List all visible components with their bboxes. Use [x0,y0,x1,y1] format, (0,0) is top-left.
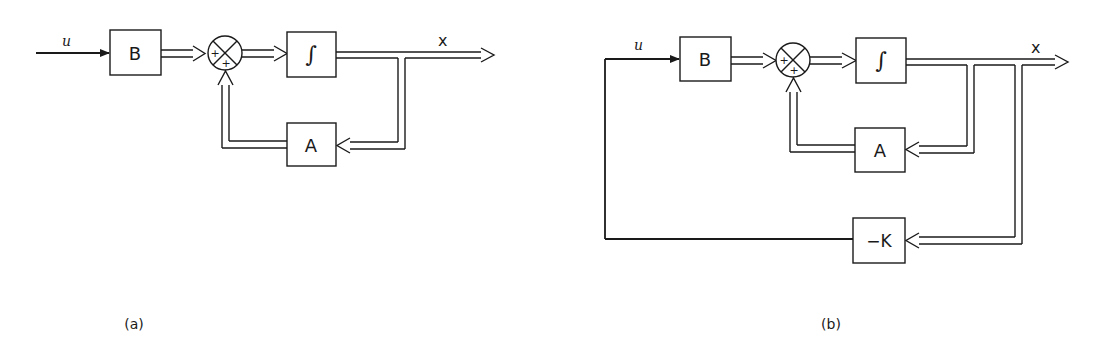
double-arrow-sum-to-integrator [242,46,287,61]
summer-sign-left-a: + [210,47,219,60]
label-u-b: u [634,37,643,53]
label-u-a: u [62,33,71,49]
diagram-a [36,30,494,166]
feedback-path-a-to-sum [786,78,855,152]
caption-a: (a) [124,316,144,332]
output-x-double-arrow [336,48,494,62]
feedback-path-to-a [337,58,405,153]
double-arrow-b-to-sum [161,46,205,61]
block-minus-k-label: −K [866,231,892,251]
double-arrow-b-to-sum [731,53,776,68]
summer-sign-bottom-b: + [789,64,798,77]
integrator-label-b: ∫ [875,48,887,73]
double-arrow-sum-to-integrator [810,53,856,68]
diagram-b [605,37,1068,263]
block-a-label-b: A [874,140,887,161]
integrator-label-a: ∫ [305,42,317,67]
feedback-path-to-minus-k [906,65,1022,248]
state-feedback-line [605,59,853,239]
summer-sign-bottom-a: + [221,57,230,70]
feedback-path-a-to-sum [218,71,287,148]
block-a-label-a: A [305,135,318,156]
caption-b: (b) [821,316,841,332]
output-x-double-arrow [906,55,1068,69]
feedback-path-to-a [906,65,974,157]
label-x-a: x [438,31,447,50]
block-b-label-a: B [129,43,141,64]
block-b-label-b: B [699,49,711,70]
summer-sign-left-b: + [779,54,788,67]
block-diagram-figure: u x B ∫ A + + (a) [0,0,1108,352]
label-x-b: x [1031,38,1040,57]
